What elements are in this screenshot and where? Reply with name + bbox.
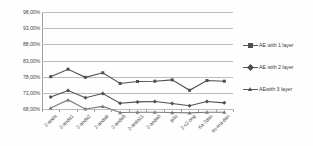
legend-marker-icon	[243, 86, 258, 93]
x-axis-tick-label-wrap: 2-s2-ong	[179, 111, 197, 129]
legend-marker-icon	[243, 42, 258, 49]
legend-label: AEwith 3 layer	[259, 86, 292, 92]
x-axis-tick-label: 2-anda0	[145, 113, 162, 130]
y-axis-tick-label: 98,00%	[0, 9, 40, 15]
data-point-marker	[153, 80, 156, 83]
x-axis-tick-label-wrap: 2-anda8	[93, 111, 110, 128]
y-axis-tick-label: 88,00%	[0, 41, 40, 47]
series-lines	[42, 12, 233, 109]
data-point-marker	[170, 102, 174, 106]
x-axis-tick-label-wrap: 2-anda9	[111, 111, 128, 128]
x-axis-tick-label-wrap: jollo	[169, 111, 179, 121]
plot-area	[42, 12, 233, 109]
legend-item[interactable]: AEwith 3 layer	[243, 84, 292, 94]
y-axis-tick-label: 68,00%	[0, 106, 40, 112]
x-axis-tick-label: 2-anda9	[110, 113, 127, 130]
x-axis-tick-label: 2-anda8	[93, 113, 110, 130]
data-point-marker	[66, 98, 70, 102]
data-point-marker	[136, 80, 139, 83]
data-point-marker	[49, 95, 53, 99]
x-axis-tick-label-wrap: 2-anda0	[145, 111, 162, 128]
data-point-marker	[153, 100, 157, 104]
legend-item[interactable]: AE with 1 layer	[243, 40, 294, 50]
x-axis-tick-label-wrap: 6s-ma-dan	[211, 111, 232, 132]
series-1	[49, 68, 226, 92]
y-axis-tick-label: 93,00%	[0, 25, 40, 31]
legend-label: AE with 2 layer	[259, 64, 294, 70]
y-axis-tick-label: 78,00%	[0, 74, 40, 80]
x-axis-tick-label: 2-anda	[42, 113, 57, 128]
series-line	[51, 69, 225, 90]
data-point-marker	[101, 71, 104, 74]
data-point-marker	[205, 79, 208, 82]
data-point-marker	[205, 100, 209, 104]
data-point-marker	[171, 78, 174, 81]
legend: AE with 1 layerAE with 2 layerAEwith 3 l…	[243, 36, 313, 96]
x-axis-tick-label: 2-s2-ong	[178, 113, 196, 131]
data-point-marker	[66, 89, 70, 93]
x-axis-tick-label-wrap: 2-anda11	[126, 111, 144, 129]
data-point-marker	[119, 82, 122, 85]
data-point-marker	[188, 104, 192, 108]
x-axis-tick-label: 2-anda2	[75, 113, 92, 130]
x-axis-tick-label: jollo	[169, 113, 179, 123]
data-point-marker	[136, 100, 140, 104]
y-axis-tick-label: 73,00%	[0, 90, 40, 96]
data-point-marker	[188, 89, 191, 92]
x-axis-tick-label-wrap: 2-anda1	[59, 111, 76, 128]
x-axis-tick-label: 2-anda1	[58, 113, 75, 130]
x-axis-tick-label: 2-anda11	[126, 113, 144, 131]
legend-item[interactable]: AE with 2 layer	[243, 62, 294, 72]
data-point-marker	[84, 76, 87, 79]
x-axis-tickmark	[233, 109, 234, 112]
legend-marker-icon	[243, 64, 258, 71]
series-2	[49, 89, 227, 108]
x-axis-labels: 2-anda2-anda12-anda22-anda82-anda92-anda…	[42, 111, 233, 146]
line-chart: 98,00%93,00%88,00%83,00%78,00%73,00%68,0…	[0, 0, 313, 146]
legend-label: AE with 1 layer	[259, 42, 294, 48]
data-point-marker	[67, 68, 70, 71]
x-axis-tick-label-wrap: 2-anda2	[76, 111, 93, 128]
x-axis-tick-label-wrap: 2-anda	[43, 111, 58, 126]
y-axis-labels: 98,00%93,00%88,00%83,00%78,00%73,00%68,0…	[0, 12, 40, 109]
y-axis-tick-label: 83,00%	[0, 58, 40, 64]
data-point-marker	[222, 101, 226, 105]
data-point-marker	[83, 96, 87, 100]
data-point-marker	[49, 75, 52, 78]
data-point-marker	[223, 80, 226, 83]
